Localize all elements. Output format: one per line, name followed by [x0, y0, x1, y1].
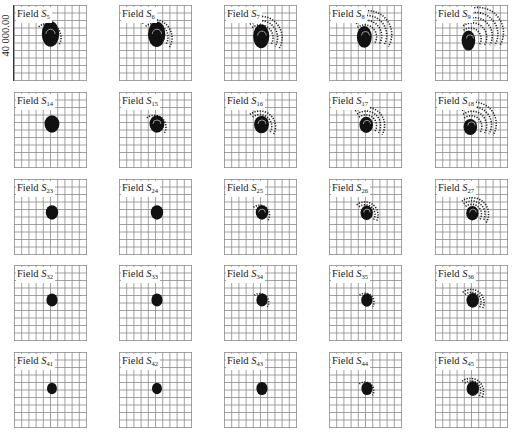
wave-front-blob	[46, 293, 57, 306]
panel-label: Field S25	[226, 181, 265, 197]
panel-label: Field S35	[331, 267, 370, 283]
panel-label: Field S23	[16, 181, 55, 197]
field-panel: Field S45	[435, 352, 508, 428]
field-panel: Field S32	[14, 265, 87, 341]
panel-label: Field S26	[331, 181, 370, 197]
wave-front-blob	[462, 198, 489, 223]
panel-label: Field S34	[226, 267, 265, 283]
field-panel: Field S8	[329, 5, 402, 81]
field-panel: Field S34	[224, 265, 297, 341]
wave-front-blob	[359, 382, 373, 396]
field-panel: Field S33	[119, 265, 192, 341]
wave-front-blob	[250, 111, 276, 135]
field-panel: Field S27	[435, 179, 508, 255]
field-panel: Field S42	[119, 352, 192, 428]
panel-label: Field S32	[16, 267, 55, 283]
wave-front-blob	[152, 383, 162, 395]
field-panel: Field S6	[119, 5, 192, 81]
panel-label: Field S16	[226, 94, 265, 110]
panel-label: Field S24	[121, 181, 160, 197]
panel-label: Field S43	[226, 354, 265, 370]
wave-front-blob	[256, 382, 267, 395]
panel-label: Field S42	[121, 354, 160, 370]
wave-front-blob	[151, 205, 163, 220]
wave-front-blob	[45, 115, 60, 133]
field-panel: Field S24	[119, 179, 192, 255]
figure: 40 000.00 Field S5Field S6Field S7Field …	[0, 0, 514, 439]
field-panel: Field S9	[435, 5, 508, 81]
panel-label: Field S41	[16, 354, 55, 370]
panel-label: Field S7	[226, 7, 262, 23]
panel-label: Field S45	[437, 354, 476, 370]
wave-front-blob	[46, 205, 58, 220]
field-panel: Field S25	[224, 179, 297, 255]
wave-front-blob	[254, 205, 270, 220]
field-panel: Field S36	[435, 265, 508, 341]
wave-front-blob	[147, 115, 166, 133]
panel-label: Field S27	[437, 181, 476, 197]
panel-label: Field S44	[331, 354, 370, 370]
panel-label: Field S6	[121, 7, 157, 23]
y-axis-label: 40 000.00	[0, 9, 11, 63]
panel-label: Field S17	[331, 94, 370, 110]
panel-label: Field S8	[331, 7, 367, 23]
field-panel: Field S17	[329, 92, 402, 168]
panel-label: Field S15	[121, 94, 160, 110]
field-panel: Field S18	[435, 92, 508, 168]
panel-label: Field S36	[437, 267, 476, 283]
field-panel: Field S35	[329, 265, 402, 341]
field-panel: Field S16	[224, 92, 297, 168]
wave-front-blob	[47, 383, 57, 395]
field-panel: Field S44	[329, 352, 402, 428]
panel-label: Field S18	[437, 94, 476, 110]
field-panel: Field S23	[14, 179, 87, 255]
field-panel: Field S41	[14, 352, 87, 428]
panel-label: Field S33	[121, 267, 160, 283]
wave-front-blob	[151, 293, 162, 306]
panel-label: Field S5	[16, 7, 52, 23]
field-panel: Field S26	[329, 179, 402, 255]
panel-label: Field S9	[437, 7, 473, 23]
panel-label: Field S14	[16, 94, 55, 110]
wave-front-blob	[462, 378, 483, 398]
field-panel: Field S43	[224, 352, 297, 428]
field-panel: Field S14	[14, 92, 87, 168]
wave-front-blob	[357, 202, 378, 222]
field-panel: Field S5	[14, 5, 87, 81]
field-panel: Field S7	[224, 5, 297, 81]
wave-front-blob	[463, 289, 484, 309]
field-panel: Field S15	[119, 92, 192, 168]
